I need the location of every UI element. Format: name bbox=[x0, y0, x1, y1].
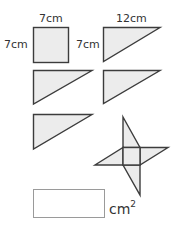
triangle-shape-1 bbox=[104, 28, 161, 62]
triangle-shape-2 bbox=[34, 71, 93, 105]
unit-exponent: 2 bbox=[130, 199, 136, 209]
answer-input-box[interactable] bbox=[33, 189, 105, 218]
triangle-shape-4 bbox=[34, 115, 93, 150]
triangle-shape-3 bbox=[104, 71, 161, 104]
area-unit-label: cm2 bbox=[109, 202, 136, 216]
square-shape bbox=[34, 28, 69, 63]
pinwheel-shape bbox=[95, 117, 168, 195]
unit-text: cm bbox=[109, 201, 130, 217]
